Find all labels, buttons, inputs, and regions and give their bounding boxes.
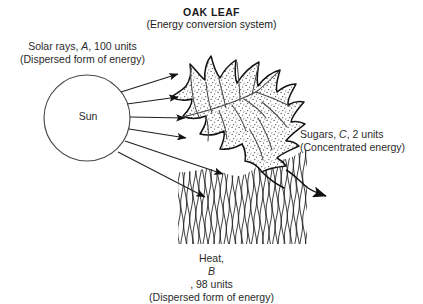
title-text: OAK LEAF [0,6,423,18]
sugars-symbol: C [339,128,347,140]
sugars-line1: Sugars, C, 2 units [300,128,383,140]
subtitle-text: (Energy conversion system) [0,18,423,31]
heat-label: Heat, B, 98 units (Dispersed form of ene… [0,252,423,304]
sun-label: Sun [45,110,131,122]
heat-line2: (Dispersed form of energy) [0,291,423,304]
page-title: OAK LEAF (Energy conversion system) [0,6,423,31]
solar-rays-label: Solar rays, A, 100 units (Dispersed form… [20,40,145,65]
sugars-label: Sugars, C, 2 units (Concentrated energy) [300,128,405,153]
solar-rays-line2: (Dispersed form of energy) [20,53,145,65]
heat-symbol: B [0,265,423,278]
solar-rays-line1: Solar rays, A, 100 units [28,40,137,52]
sugars-line2: (Concentrated energy) [300,141,405,153]
heat-line1: Heat, B, 98 units [0,252,423,291]
